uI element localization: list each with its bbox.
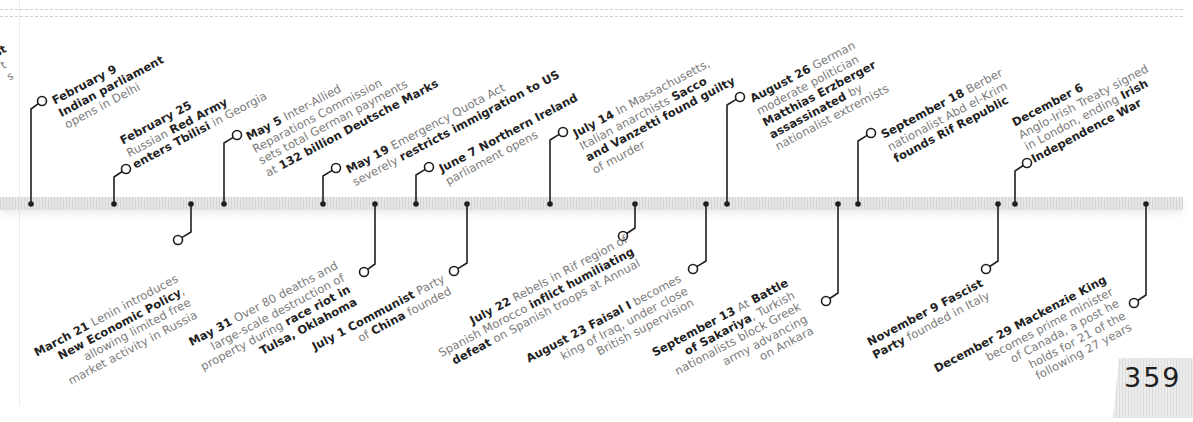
event-marker-circle [174, 236, 183, 245]
timeline-dot [1012, 201, 1018, 207]
timeline-dot [464, 201, 470, 207]
connector-december-29 [1130, 201, 1149, 307]
event-marker-circle [332, 164, 341, 173]
timeline-dot [413, 201, 419, 207]
event-marker-circle [867, 129, 876, 138]
timeline-dot [28, 201, 34, 207]
timeline-dot [724, 201, 730, 207]
connector-february-9 [28, 97, 46, 207]
connector-december-6 [1012, 159, 1031, 207]
event-marker-circle [982, 265, 991, 274]
event-marker-circle [1023, 159, 1032, 168]
connector-february-25 [111, 165, 130, 207]
connector-august-26 [724, 93, 744, 207]
connector-august-23 [689, 201, 709, 273]
event-marker-circle [122, 165, 131, 174]
timeline-dot [111, 201, 117, 207]
connector-may-31 [360, 201, 378, 276]
page-number: 359 [1124, 362, 1182, 393]
connector-july-14 [547, 128, 567, 207]
connector-september-13 [822, 201, 841, 305]
timeline-dot [632, 201, 638, 207]
connector-march-21 [174, 201, 194, 244]
connector-july-1 [450, 201, 470, 275]
connector-may-19 [320, 164, 340, 207]
event-marker-circle [689, 265, 698, 274]
timeline-dot [320, 201, 326, 207]
event-marker-circle [233, 131, 242, 140]
timeline-dot [855, 201, 861, 207]
timeline-dot [1143, 201, 1149, 207]
event-marker-circle [1130, 299, 1139, 308]
event-marker-circle [38, 97, 47, 106]
event-marker-circle [450, 267, 459, 276]
timeline-dot [188, 201, 194, 207]
timeline-dot [703, 201, 709, 207]
connector-june-7 [413, 163, 433, 207]
event-marker-circle [360, 268, 369, 277]
event-marker-circle [822, 297, 831, 306]
timeline-dot [835, 201, 841, 207]
timeline-dot [547, 201, 553, 207]
connector-november-9 [982, 201, 1001, 273]
event-marker-circle [425, 163, 434, 172]
connector-september-18 [855, 129, 875, 207]
connector-may-5 [221, 131, 241, 207]
timeline-dot [995, 201, 1001, 207]
timeline-dot [372, 201, 378, 207]
timeline-dot [221, 201, 227, 207]
